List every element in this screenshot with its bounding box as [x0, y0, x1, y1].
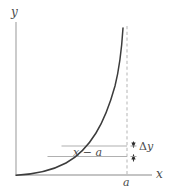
delta-symbol: Δ: [139, 140, 147, 153]
delta-y-label: Δy: [139, 141, 153, 152]
delta-y-arrow: [131, 142, 135, 162]
delta-y-variable: y: [147, 140, 153, 153]
x-minus-a-label: x − a: [73, 147, 102, 158]
figure-canvas: [0, 0, 170, 195]
derivative-increment-figure: y x a Δy x − a: [0, 0, 170, 195]
y-axis-label: y: [11, 6, 18, 18]
x-axis-label: x: [156, 168, 163, 180]
x-tick-label-a: a: [123, 177, 130, 188]
function-curve: [16, 28, 123, 175]
